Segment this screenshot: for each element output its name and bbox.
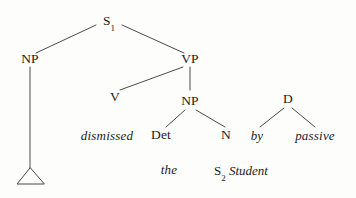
terminal-s2-student: S2 Student xyxy=(214,163,268,181)
node-d: D xyxy=(283,92,293,106)
branch-d-passive xyxy=(292,108,315,127)
node-det-label: Det xyxy=(151,127,171,142)
node-n: N xyxy=(221,128,231,142)
terminal-dismissed: dismissed xyxy=(81,129,133,143)
branch-s1-vp xyxy=(122,25,184,53)
node-np-subject-label: NP xyxy=(21,51,39,66)
node-d-label: D xyxy=(283,91,293,106)
node-vp-label: VP xyxy=(181,51,199,66)
node-det: Det xyxy=(151,128,171,142)
node-v: V xyxy=(110,90,120,104)
node-np-object-label: NP xyxy=(181,93,199,108)
subject-triangle xyxy=(17,168,44,184)
node-np-subject: NP xyxy=(21,52,39,66)
node-vp: VP xyxy=(181,52,199,66)
node-s2: S2 xyxy=(214,163,226,178)
branch-d-by xyxy=(260,108,284,127)
node-v-label: V xyxy=(110,89,120,104)
terminal-student-label: Student xyxy=(229,163,268,178)
node-s1-label: S xyxy=(103,13,111,28)
terminal-dismissed-label: dismissed xyxy=(81,128,133,143)
terminal-passive-label: passive xyxy=(295,128,335,143)
branch-np-n xyxy=(196,110,225,127)
branch-s1-np xyxy=(36,25,96,53)
terminal-the-label: the xyxy=(161,162,177,177)
branch-np-det xyxy=(166,110,185,127)
node-n-label: N xyxy=(221,127,231,142)
branch-vp-v xyxy=(120,67,183,90)
terminal-by-label: by xyxy=(251,128,264,143)
node-s1: S1 xyxy=(103,14,115,33)
tree-branch-lines xyxy=(0,0,356,198)
terminal-passive: passive xyxy=(295,129,335,143)
syntax-tree-diagram: S1 NP VP V NP Det N D dismissed the S2 S… xyxy=(0,0,356,198)
terminal-the: the xyxy=(161,163,177,177)
node-s1-subscript: 1 xyxy=(111,23,116,33)
node-np-object: NP xyxy=(181,94,199,108)
terminal-by: by xyxy=(251,129,264,143)
node-s2-subscript: 2 xyxy=(221,173,226,183)
